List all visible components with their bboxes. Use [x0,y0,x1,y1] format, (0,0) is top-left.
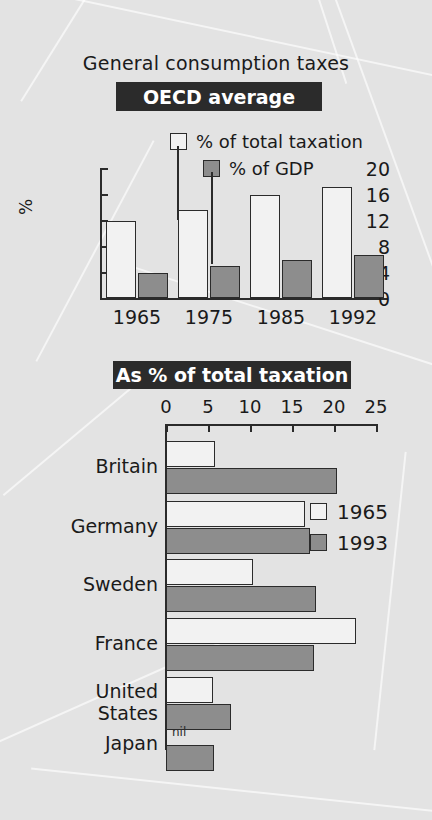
bottom-x-tick-label-5: 5 [191,396,225,417]
y-tick-label-16: 16 [356,184,390,206]
y-tick-20 [100,168,108,170]
bottom-x-tick-5 [208,424,210,432]
y-tick-label-12: 12 [356,210,390,232]
bottom-x-tick-25 [376,424,378,432]
bottom-x-tick-10 [250,424,252,432]
bottom-chart-category-sweden: Sweden [8,573,158,595]
bottom-bar-britain-1965 [166,441,215,467]
bottom-x-tick-20 [334,424,336,432]
bottom-chart-x-axis [165,424,376,426]
legend-label-total-taxation: % of total taxation [196,131,363,152]
legend-item-total-taxation: % of total taxation [170,128,363,155]
y-tick-16 [100,194,108,196]
bottom-bar-germany-1993 [166,528,310,554]
top-bar-1965-total-taxation [106,221,136,298]
top-chart-x-axis [100,298,388,300]
bottom-bar-sweden-1965 [166,559,253,585]
bottom-bar-japan-1993 [166,745,214,771]
bottom-chart-category-japan: Japan [8,732,158,754]
figure-supertitle: General consumption taxes [0,52,432,74]
bottom-x-tick-label-15: 15 [275,396,309,417]
bottom-chart-category-germany: Germany [8,515,158,537]
top-chart-y-axis-label: % [16,199,36,215]
top-bar-1985-total-taxation [250,195,280,298]
top-chart-x-label-1992: 1992 [312,306,394,328]
bottom-x-tick-0 [166,424,168,432]
legend-label-1965: 1965 [337,500,388,524]
y-tick-label-20: 20 [356,158,390,180]
top-bar-1992-total-taxation [322,187,352,298]
oecd-average-banner: OECD average [116,82,322,111]
top-chart-x-label-1965: 1965 [96,306,178,328]
bottom-x-tick-label-25: 25 [359,396,393,417]
top-chart-plot: 20 16 12 8 4 0 1965197519851992 [60,160,390,310]
legend-swatch-1965 [310,503,327,520]
bottom-x-tick-label-20: 20 [317,396,351,417]
legend-item-1993: 1993 [310,527,388,558]
bottom-bar-sweden-1993 [166,586,316,612]
y-tick-0 [100,298,108,300]
top-chart-y-axis [100,168,102,300]
legend-item-1965: 1965 [310,496,388,527]
bottom-chart-category-france: France [8,632,158,654]
bottom-chart-plot: 0510152025 nil BritainGermanySwedenFranc… [0,396,432,796]
bottom-x-tick-label-0: 0 [149,396,183,417]
top-bar-1965-gdp [138,273,168,298]
bottom-chart-category-united-states: UnitedStates [8,680,158,724]
bottom-bar-united-states-1965 [166,677,213,703]
legend-label-1993: 1993 [337,531,388,555]
bottom-bar-annotation-japan-nil: nil [172,725,186,739]
bottom-bar-britain-1993 [166,468,337,494]
top-chart-x-label-1975: 1975 [168,306,250,328]
chart-page: General consumption taxes OECD average %… [0,0,432,820]
top-chart-x-label-1985: 1985 [240,306,322,328]
bottom-chart-category-britain: Britain [8,455,158,477]
bottom-x-tick-15 [292,424,294,432]
top-bar-1975-total-taxation [178,210,208,298]
top-bar-1992-gdp [354,255,384,298]
bottom-bar-germany-1965 [166,501,305,527]
legend-swatch-1993 [310,534,327,551]
bottom-chart-legend: 1965 1993 [310,496,388,558]
total-taxation-banner: As % of total taxation [113,361,351,389]
bottom-bar-france-1993 [166,645,314,671]
top-bar-1985-gdp [282,260,312,298]
bottom-bar-france-1965 [166,618,356,644]
top-bar-1975-gdp [210,266,240,298]
bottom-x-tick-label-10: 10 [233,396,267,417]
